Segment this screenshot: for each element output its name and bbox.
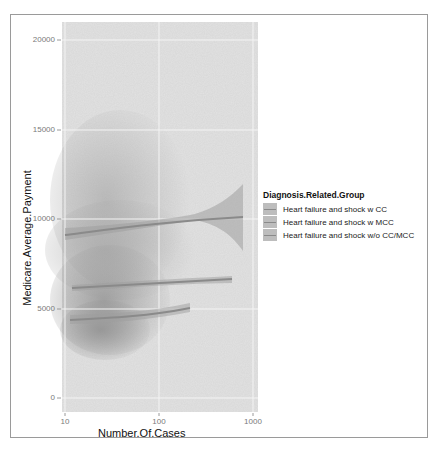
x-tick-label: 1000 — [233, 417, 273, 426]
legend: Diagnosis.Related.Group Heart failure an… — [263, 190, 414, 242]
legend-key-icon — [263, 229, 277, 241]
legend-item: Heart failure and shock w CC — [263, 203, 414, 215]
x-tick-label: 10 — [45, 417, 85, 426]
y-tick-label: 15000 — [15, 125, 55, 134]
legend-key-icon — [263, 216, 277, 228]
legend-label: Heart failure and shock w/o CC/MCC — [283, 231, 414, 240]
x-axis-title: Number.Of.Cases — [98, 427, 185, 439]
y-tick-label: 0 — [15, 393, 55, 402]
legend-label: Heart failure and shock w MCC — [283, 218, 394, 227]
legend-label: Heart failure and shock w CC — [283, 205, 387, 214]
y-tick-label: 20000 — [15, 35, 55, 44]
legend-item: Heart failure and shock w/o CC/MCC — [263, 229, 414, 241]
legend-key-icon — [263, 203, 277, 215]
y-axis-title: Medicare.Average.Payment — [21, 163, 33, 313]
legend-item: Heart failure and shock w MCC — [263, 216, 414, 228]
x-tick-label: 100 — [139, 417, 179, 426]
legend-title: Diagnosis.Related.Group — [263, 190, 414, 200]
